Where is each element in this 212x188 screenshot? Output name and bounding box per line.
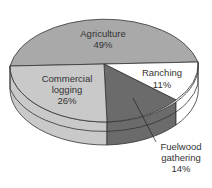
label-fuelwood: Fuelwood gathering 14% bbox=[160, 141, 201, 174]
label-logging-pct: 26% bbox=[57, 95, 77, 106]
label-logging-name1: Commercial bbox=[42, 73, 93, 84]
label-ranching-pct: 11% bbox=[153, 79, 172, 90]
pie-chart: Agriculture 49% Ranching 11% Commercial … bbox=[0, 0, 212, 188]
label-agriculture-pct: 49% bbox=[93, 39, 113, 50]
label-agriculture-name: Agriculture bbox=[80, 28, 125, 39]
label-fuelwood-name2: gathering bbox=[161, 152, 201, 163]
label-logging-name2: logging bbox=[52, 84, 83, 95]
label-fuelwood-pct: 14% bbox=[171, 163, 191, 174]
label-fuelwood-name1: Fuelwood bbox=[160, 141, 201, 152]
label-ranching-name: Ranching bbox=[142, 67, 182, 78]
